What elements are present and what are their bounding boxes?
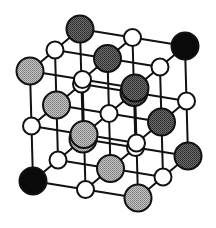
white-small-atom: [152, 59, 169, 76]
white-small-atom: [124, 29, 141, 46]
light-large-atom: [17, 58, 44, 85]
dark-large-atom: [122, 75, 149, 102]
white-small-atom: [47, 42, 64, 59]
white-small-atom: [50, 152, 67, 169]
white-small-atom: [74, 71, 91, 88]
white-small-atom: [128, 135, 145, 152]
black-large-atom: [20, 168, 47, 195]
crystal-lattice-diagram: [0, 0, 216, 228]
white-small-atom: [178, 93, 195, 110]
dark-large-atom: [67, 16, 94, 43]
white-small-atom: [23, 118, 40, 135]
dark-large-atom: [94, 45, 121, 72]
dark-large-atom: [175, 143, 202, 170]
light-large-atom: [71, 121, 98, 148]
white-small-atom: [101, 105, 118, 122]
white-small-atom: [155, 169, 172, 186]
light-large-atom: [125, 185, 152, 212]
dark-large-atom: [148, 109, 175, 136]
white-small-atom: [77, 181, 94, 198]
light-large-atom: [97, 155, 124, 182]
lattice-atoms: [17, 16, 202, 212]
light-large-atom: [43, 92, 70, 119]
black-large-atom: [172, 33, 199, 60]
